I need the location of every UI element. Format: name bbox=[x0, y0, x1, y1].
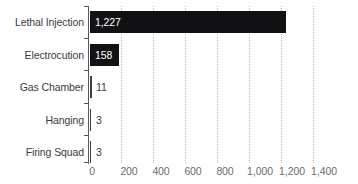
plot-area: 1,227 158 11 3 3 bbox=[89, 6, 358, 163]
value-label-hanging: 3 bbox=[96, 109, 102, 131]
bar-chart: 1,227 158 11 3 3 Lethal Injection Electr… bbox=[0, 0, 358, 184]
value-label-electrocution: 158 bbox=[95, 44, 112, 66]
y-axis-tick-gas-chamber bbox=[84, 70, 89, 71]
x-tick-label-0: 0 bbox=[89, 165, 95, 177]
category-axis: Lethal Injection Electrocution Gas Chamb… bbox=[0, 0, 84, 184]
value-label-gas-chamber: 11 bbox=[96, 76, 107, 98]
bar-gas-chamber[interactable] bbox=[90, 76, 92, 98]
y-axis-tick-electrocution bbox=[84, 38, 89, 39]
x-tick-label-1200: 1,200 bbox=[279, 165, 305, 177]
x-tick-label-1400: 1,400 bbox=[311, 165, 337, 177]
bar-hanging[interactable] bbox=[90, 109, 91, 131]
x-tick-label-200: 200 bbox=[120, 165, 137, 177]
gridline-1400 bbox=[313, 6, 314, 163]
x-tick-label-600: 600 bbox=[184, 165, 201, 177]
value-label-lethal-injection: 1,227 bbox=[95, 11, 121, 33]
category-label-hanging: Hanging bbox=[0, 114, 84, 126]
y-axis-foot bbox=[84, 162, 89, 163]
y-axis-tick-lethal-injection bbox=[84, 6, 89, 7]
x-tick-label-800: 800 bbox=[216, 165, 233, 177]
category-label-electrocution: Electrocution bbox=[0, 49, 84, 61]
category-label-lethal-injection: Lethal Injection bbox=[0, 16, 84, 28]
value-label-firing-squad: 3 bbox=[96, 141, 102, 163]
category-label-gas-chamber: Gas Chamber bbox=[0, 81, 84, 93]
y-axis-tick-hanging bbox=[84, 103, 89, 104]
y-axis-tick-firing-squad bbox=[84, 135, 89, 136]
y-axis-spine bbox=[88, 6, 89, 164]
bar-firing-squad[interactable] bbox=[90, 141, 91, 163]
x-tick-label-400: 400 bbox=[152, 165, 169, 177]
x-tick-label-1000: 1,000 bbox=[247, 165, 273, 177]
category-label-firing-squad: Firing Squad bbox=[0, 146, 84, 158]
